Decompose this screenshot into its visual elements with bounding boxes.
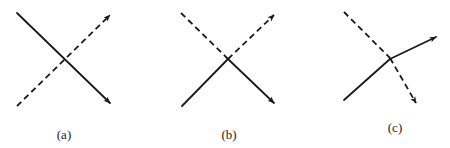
dashed-segment-out bbox=[228, 15, 274, 59]
solid-segment-in bbox=[182, 59, 228, 106]
panel-a: (a) bbox=[17, 13, 110, 142]
dashed-segment-in bbox=[181, 13, 228, 59]
solid-segment-in bbox=[344, 59, 390, 100]
dashed-segment-in bbox=[344, 12, 390, 58]
diagram-canvas: (a) (b) (c) bbox=[0, 0, 450, 148]
panel-label-c: (c) bbox=[388, 120, 402, 135]
solid-arrow-line bbox=[17, 13, 110, 103]
dashed-segment-deflected bbox=[390, 58, 416, 103]
solid-segment-out bbox=[228, 59, 274, 103]
panel-b: (b) bbox=[181, 13, 274, 142]
dashed-arrow-line bbox=[17, 15, 110, 106]
panel-label-a: (a) bbox=[57, 127, 71, 142]
panel-label-b: (b) bbox=[221, 127, 236, 142]
panel-c: (c) bbox=[344, 12, 436, 135]
solid-segment-deflected bbox=[390, 37, 436, 59]
